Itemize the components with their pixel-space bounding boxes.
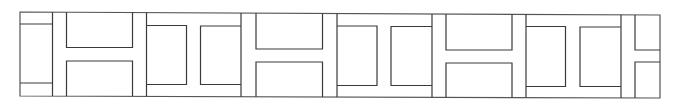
h-bottom-box <box>446 63 512 98</box>
h-top-box <box>256 13 323 49</box>
vertical-h-motif-panel <box>147 26 242 85</box>
right-partial-top-box <box>635 15 660 50</box>
h-top-box <box>446 14 512 50</box>
h-motif-panel <box>446 14 512 98</box>
h-motif-panel <box>256 13 323 97</box>
vh-right-box <box>580 27 621 87</box>
frieze-diagram <box>0 0 680 109</box>
h-bottom-box <box>256 62 323 97</box>
vh-left-box <box>337 26 377 86</box>
motif-panels <box>67 12 622 97</box>
vertical-h-motif-panel <box>526 27 621 87</box>
vertical-h-motif-panel <box>337 26 432 86</box>
right-partial-bottom-box <box>635 62 660 98</box>
vh-right-box <box>201 26 242 85</box>
h-top-box <box>67 12 133 47</box>
vh-right-box <box>391 27 432 86</box>
h-motif-panel <box>67 12 133 96</box>
h-bottom-box <box>67 61 133 96</box>
vh-left-box <box>526 27 566 87</box>
panel-dividers <box>53 12 622 98</box>
vh-left-box <box>147 26 187 85</box>
